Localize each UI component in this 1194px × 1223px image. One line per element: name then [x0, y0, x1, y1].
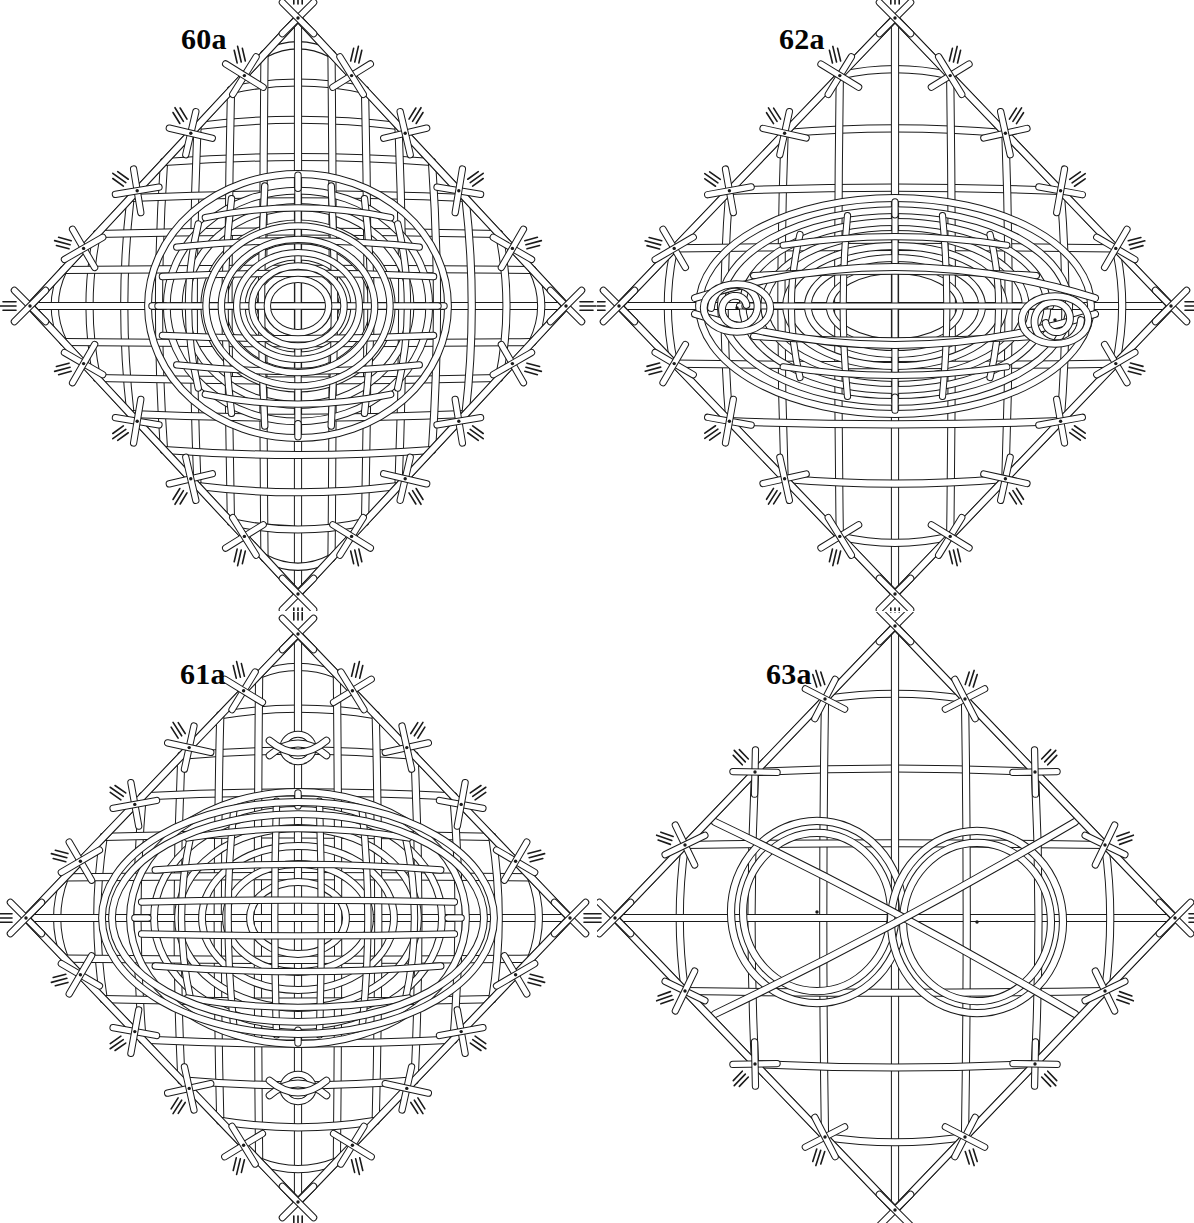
figure-panel-60a	[0, 0, 597, 611]
figure-panel-62a	[597, 0, 1194, 611]
figure-panel-61a	[0, 612, 597, 1223]
figure-label-63a: 63a	[766, 657, 812, 691]
figure-panel-63a	[597, 612, 1194, 1223]
knot-diagram-62a	[597, 0, 1194, 611]
knot-diagram-61a	[0, 612, 597, 1223]
figure-label-61a: 61a	[180, 657, 226, 691]
knot-plate: 60a 62a 61a 63a	[0, 0, 1194, 1223]
figure-label-60a: 60a	[181, 22, 227, 56]
knot-diagram-60a	[0, 0, 597, 611]
knot-diagram-63a	[597, 612, 1194, 1223]
figure-label-62a: 62a	[779, 22, 825, 56]
